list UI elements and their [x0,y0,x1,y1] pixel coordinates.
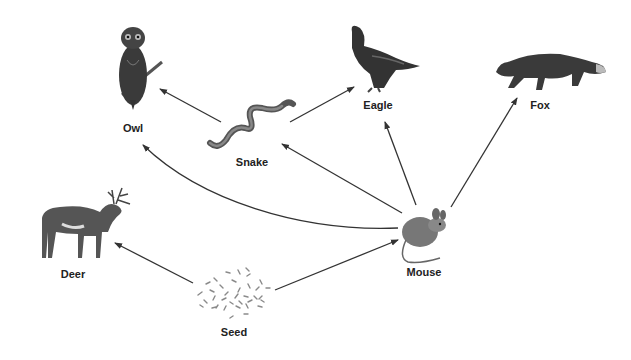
label-seed: Seed [221,326,247,338]
fox-icon [496,54,606,90]
label-mouse: Mouse [407,266,442,278]
seed-icon [198,268,270,318]
mouse-icon [402,208,446,263]
eagle-icon [352,26,420,92]
label-deer: Deer [61,268,85,280]
snake-icon [210,102,293,145]
owl-icon [119,27,162,110]
label-owl: Owl [123,122,143,134]
arrow-snake-to-eagle [290,87,354,122]
arrow-seed-to-deer [115,243,193,283]
food-web-diagram [0,0,631,360]
arrow-mouse-to-owl [143,145,398,228]
arrow-seed-to-mouse [275,240,398,290]
arrow-mouse-to-snake [282,144,402,213]
label-snake: Snake [236,156,268,168]
arrows [115,87,517,290]
arrow-mouse-to-eagle [385,122,416,205]
deer-icon [42,188,130,258]
label-fox: Fox [530,99,550,111]
label-eagle: Eagle [363,99,392,111]
arrow-snake-to-owl [160,89,221,122]
arrow-mouse-to-fox [451,98,517,207]
